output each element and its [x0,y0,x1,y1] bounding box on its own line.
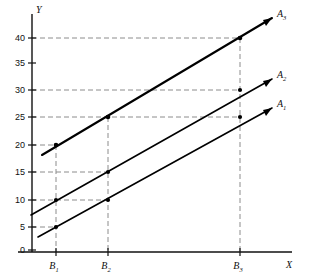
series-a2-arrowhead [263,79,272,87]
x-tick-label-b2-sub: 2 [107,266,111,273]
series-a3 [42,18,272,155]
series-a3-line [42,18,272,155]
x-axis-label: X [285,259,293,270]
y-axis-label: Y [36,4,43,15]
series-a3-arrowhead [263,18,272,26]
line-chart-svg: 40 35 30 25 20 15 10 5 0 B1 B2 B3 Y X [0,0,309,277]
series-a3-marker-b1 [54,143,59,148]
series-a2-line [31,79,272,215]
y-tick-label-40: 40 [15,33,25,43]
series-a1-marker-b3 [238,115,242,119]
series-a1-marker-b1 [54,225,58,229]
series-label-a2-sub: 2 [283,75,287,82]
series-label-a1-sub: 1 [283,104,286,111]
series-a1-marker-b2 [106,198,110,202]
y-tick-label-30: 30 [15,85,25,95]
series-a3-marker-b3 [238,36,243,41]
x-tick-labels: B1 B2 B3 [49,260,243,273]
x-tick-label-b2: B2 [101,260,111,273]
x-tick-label-b1: B1 [49,260,58,273]
y-tick-label-10: 10 [15,195,25,205]
y-tick-label-20: 20 [15,140,25,150]
axes [18,14,292,252]
y-tick-label-5: 5 [20,222,25,232]
y-tick-label-35: 35 [15,58,25,68]
series-a2-marker-b1 [54,198,58,202]
series-a2-marker-b3 [238,88,242,92]
series-a1-arrowhead [263,108,272,116]
series-a2 [31,79,272,215]
guide-lines [32,38,240,252]
series-label-a1: A1 [276,98,286,111]
x-tick-label-b1-sub: 1 [55,266,58,273]
y-tick-label-0: 0 [20,245,25,255]
x-tick-label-b3: B3 [233,260,243,273]
y-tick-label-25: 25 [15,112,25,122]
series-label-a3-sub: 3 [282,14,287,21]
y-tick-labels: 40 35 30 25 20 15 10 5 0 [15,33,25,255]
series-label-a3: A3 [276,8,287,21]
series-labels: A3 A2 A1 [276,8,287,111]
y-tick-label-15: 15 [15,167,25,177]
series-a2-marker-b2 [106,170,110,174]
series-a3-marker-b2 [106,115,111,120]
series-label-a2: A2 [276,69,287,82]
x-tick-label-b3-sub: 3 [238,266,243,273]
chart-figure: 40 35 30 25 20 15 10 5 0 B1 B2 B3 Y X [0,0,309,277]
